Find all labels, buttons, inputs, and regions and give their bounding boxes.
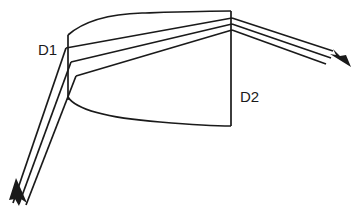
- outgoing-ray-2: [232, 24, 331, 58]
- outgoing-ray-1: [232, 18, 333, 51]
- diagram-canvas: D1 D2: [0, 0, 363, 214]
- beam-envelope-bottom-curve: [68, 97, 231, 126]
- optical-ray-diagram: D1 D2: [0, 0, 363, 214]
- label-d1: D1: [38, 41, 57, 58]
- outgoing-ray-3: [232, 30, 326, 64]
- outgoing-beam-arrow-icon: [330, 49, 351, 67]
- incoming-beam-arrow-icon: [9, 178, 27, 206]
- incoming-ray-2: [19, 62, 71, 204]
- internal-ray-3: [76, 30, 232, 76]
- incoming-ray-1: [13, 48, 66, 203]
- label-d2: D2: [240, 88, 259, 105]
